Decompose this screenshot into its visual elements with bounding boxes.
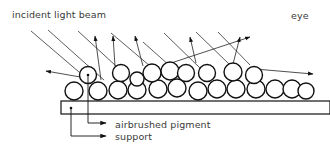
pigment-scattering-diagram: incident light beam eye airbrushed pigme… xyxy=(0,0,330,156)
support-label: support xyxy=(115,131,152,142)
incident-light-beam-label: incident light beam xyxy=(12,9,106,20)
pigment-particles xyxy=(65,62,314,100)
support-layer xyxy=(61,101,330,114)
airbrushed-pigment-label: airbrushed pigment xyxy=(115,119,211,130)
diagram-svg xyxy=(0,0,330,156)
eye-label: eye xyxy=(291,10,309,21)
